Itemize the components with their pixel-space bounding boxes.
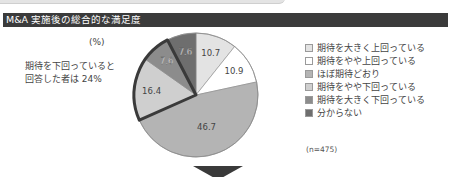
pie-label: 7.6 — [160, 56, 174, 66]
legend-swatch — [305, 57, 313, 65]
pie-label: 10.9 — [224, 66, 243, 76]
legend-item: 期待を大きく上回っている — [305, 41, 425, 54]
legend-item: ほぼ期待どおり — [305, 67, 425, 80]
pie-label: 16.4 — [142, 86, 161, 96]
down-triangle-icon — [193, 166, 243, 177]
legend-swatch — [305, 96, 313, 104]
legend-item: 期待をやや上回っている — [305, 54, 425, 67]
legend-label: 分からない — [317, 106, 362, 119]
sample-size: (n=475) — [306, 145, 337, 154]
legend-label: 期待を大きく上回っている — [317, 41, 425, 54]
legend-item: 分からない — [305, 106, 425, 119]
legend: 期待を大きく上回っている 期待をやや上回っている ほぼ期待どおり 期待をやや下回… — [305, 41, 425, 119]
pie-label: 46.7 — [197, 122, 216, 132]
legend-item: 期待をやや下回っている — [305, 80, 425, 93]
legend-swatch — [305, 83, 313, 91]
legend-label: 期待を大きく下回っている — [317, 93, 425, 106]
legend-label: 期待をやや上回っている — [317, 54, 416, 67]
pie-label: 10.7 — [201, 48, 220, 58]
legend-swatch — [305, 44, 313, 52]
legend-swatch — [305, 70, 313, 78]
legend-label: ほぼ期待どおり — [317, 67, 380, 80]
legend-item: 期待を大きく下回っている — [305, 93, 425, 106]
legend-swatch — [305, 109, 313, 117]
legend-label: 期待をやや下回っている — [317, 80, 416, 93]
pie-label: 7.6 — [179, 47, 193, 57]
